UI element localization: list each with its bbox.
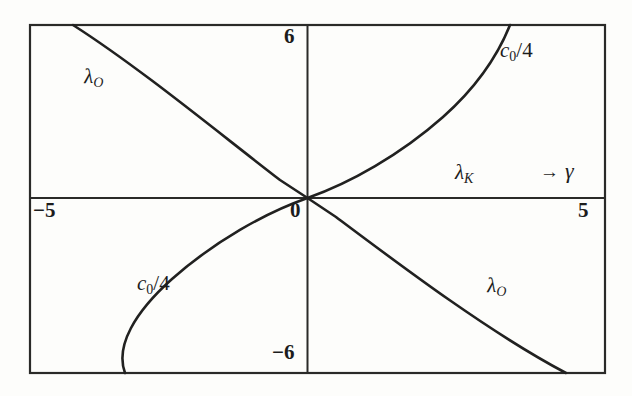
curve-label-lambda-o-upper: λO <box>84 66 104 91</box>
figure-container: 6 −6 0 −5 5 λO λO c0/4 c0/4 λK →γ <box>0 0 632 396</box>
lambda-symbol: λ <box>455 160 464 184</box>
curve-label-lambda-k: λK <box>455 162 473 186</box>
curve-label-lambda-o-lower: λO <box>487 275 507 300</box>
c-symbol: c <box>137 271 146 295</box>
lambda-subscript: O <box>93 75 104 90</box>
lambda-subscript: K <box>464 171 473 186</box>
c-symbol: c <box>500 38 509 62</box>
curve-label-c0-over-4-lower: c0/4 <box>137 273 170 297</box>
y-axis-tick-negative: −6 <box>272 342 294 363</box>
plot-canvas <box>0 0 632 396</box>
c-divisor: /4 <box>516 38 532 62</box>
curve-c0-over-4-upper <box>308 25 511 198</box>
x-axis-tick-positive: 5 <box>578 200 589 221</box>
curve-label-c0-over-4-upper: c0/4 <box>500 40 533 64</box>
c-divisor: /4 <box>153 271 169 295</box>
x-axis-tick-negative: −5 <box>33 200 55 221</box>
x-axis-name-group: →γ <box>540 160 574 182</box>
y-axis-tick-positive: 6 <box>284 26 295 47</box>
arrow-right-icon: → <box>540 161 559 182</box>
origin-tick: 0 <box>290 200 301 221</box>
gamma-symbol: γ <box>565 158 574 183</box>
lambda-subscript: O <box>496 284 507 299</box>
